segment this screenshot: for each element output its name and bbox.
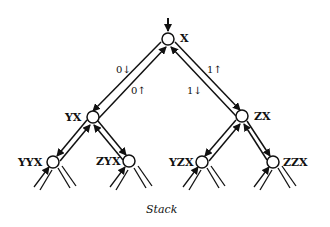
node-zx: ZX xyxy=(236,110,271,123)
edge-label-1-up: 1↑ xyxy=(207,64,222,75)
edge-zx-zzx xyxy=(244,121,270,160)
leaf-stubs xyxy=(34,166,296,190)
edge-x-zx xyxy=(171,42,240,116)
svg-text:YX: YX xyxy=(64,111,82,124)
edge-x-yx xyxy=(93,42,166,118)
edge-yx-yyx xyxy=(57,120,90,161)
svg-text:ZX: ZX xyxy=(254,110,271,123)
node-zyx: ZYX xyxy=(96,155,135,168)
edge-label-0-up: 0↑ xyxy=(131,85,146,96)
svg-text:ZZX: ZZX xyxy=(283,156,308,169)
node-zzx: ZZX xyxy=(267,156,308,169)
node-yyx: YYX xyxy=(17,156,59,169)
stack-diagram: X YX ZX YYX ZYX YZX ZZX 0↓ 0↑ 1↑ 1↓ xyxy=(0,0,330,227)
edge-zx-yzx xyxy=(205,120,240,161)
svg-text:YZX: YZX xyxy=(168,156,194,169)
svg-text:YYX: YYX xyxy=(17,156,43,169)
node-yzx: YZX xyxy=(168,156,208,169)
node-yx: YX xyxy=(64,111,99,124)
svg-text:ZYX: ZYX xyxy=(96,155,121,168)
svg-text:X: X xyxy=(180,32,189,45)
diagram-caption: Stack xyxy=(146,203,178,216)
edge-label-0-down: 0↓ xyxy=(116,64,131,75)
edge-label-1-down: 1↓ xyxy=(187,85,202,96)
